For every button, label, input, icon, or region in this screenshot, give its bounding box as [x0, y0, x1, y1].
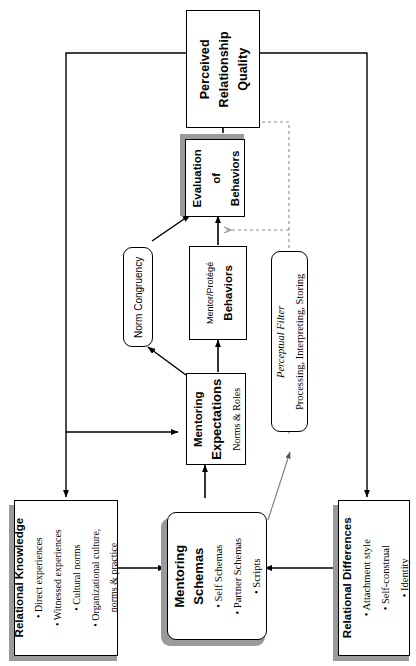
label-line-3: Behaviors	[228, 150, 240, 206]
bullet-2: • Partner Schemas	[231, 538, 242, 615]
node-mentoring-schemas-title-2: Schemas	[191, 547, 206, 604]
bullet-3: • Identity	[398, 559, 409, 598]
node-mentoring-expectations-label: Mentoring Expectations Norms & Roles	[188, 379, 245, 460]
edge-quality-to-left-rail	[66, 53, 186, 432]
node-relational-knowledge-label: Relational Knowledge • Direct experience…	[9, 518, 122, 638]
node-mentoring-schemas-title-1: Mentoring	[172, 545, 187, 608]
bullet-2: • Self-construal	[379, 545, 390, 610]
node-relational-knowledge[interactable]: Relational Knowledge • Direct experience…	[14, 500, 118, 656]
node-mentoring-schemas-label: Mentoring Schemas • Self Schemas • Partn…	[170, 538, 264, 615]
node-mentoring-schemas[interactable]: Mentoring Schemas • Self Schemas • Partn…	[167, 512, 267, 640]
label-line-1: Evaluation	[191, 149, 203, 207]
node-evaluation-of-behaviors-label: Evaluation of Behaviors	[187, 149, 244, 207]
label-line-2: Expectations	[209, 379, 224, 460]
node-norm-congruency[interactable]: Norm Congruency	[123, 247, 153, 347]
bullet-4: • Organizational culture,	[90, 529, 101, 627]
edge-norm-congruency-to-evaluation	[152, 215, 190, 241]
node-relational-knowledge-title: Relational Knowledge	[13, 518, 25, 638]
label-line-3: Norms & Roles	[230, 388, 241, 451]
label-line-2: of	[210, 173, 222, 184]
label-line-3: Quality	[235, 47, 249, 90]
label-line-1: Perceptual Filter	[276, 305, 287, 377]
node-perceived-relationship-quality-label: Perceived Relationship Quality	[195, 31, 252, 107]
bullet-3: • Cultural norms	[71, 545, 82, 611]
node-mentor-protege-behaviors-label: Mentor/Protégé Behaviors	[199, 262, 237, 324]
diagram-canvas: Perceived Relationship Quality Evaluatio…	[0, 0, 416, 666]
node-norm-congruency-label: Norm Congruency	[129, 256, 148, 337]
bullet-2: • Witnessed experiences	[52, 530, 63, 627]
label-line-2: Relationship	[217, 31, 231, 107]
bullet-1: • Self Schemas	[213, 544, 224, 607]
node-relational-differences-label: Relational Differences • Attachment styl…	[336, 518, 412, 639]
edge-schemas-to-perceptual-filter	[268, 452, 290, 520]
node-relational-differences[interactable]: Relational Differences • Attachment styl…	[338, 500, 410, 656]
node-relational-differences-title: Relational Differences	[340, 518, 352, 639]
bullet-3: • Scripts	[250, 558, 261, 593]
node-perceptual-filter[interactable]: Perceptual Filter Processing, Interpreti…	[271, 251, 308, 432]
node-mentoring-expectations[interactable]: Mentoring Expectations Norms & Roles	[186, 373, 246, 465]
label-line-1: Mentoring	[192, 391, 204, 447]
bullet-1: • Direct experiences	[33, 538, 44, 619]
label-line-1: Perceived	[198, 39, 212, 99]
edge-expectations-to-norm-congruency	[148, 347, 186, 375]
bullet-5: norms & practice	[109, 543, 120, 612]
bullet-1: • Attachment style	[360, 539, 371, 616]
node-evaluation-of-behaviors[interactable]: Evaluation of Behaviors	[185, 139, 245, 217]
node-perceived-relationship-quality[interactable]: Perceived Relationship Quality	[186, 10, 260, 128]
node-mentor-protege-behaviors[interactable]: Mentor/Protégé Behaviors	[189, 246, 247, 340]
label-line-2: Behaviors	[222, 265, 234, 321]
label-line-1: Mentor/Protégé	[205, 262, 215, 324]
label-line-2: Processing, Interpreting, Storing	[295, 273, 306, 409]
node-perceptual-filter-label: Perceptual Filter Processing, Interpreti…	[271, 273, 309, 409]
